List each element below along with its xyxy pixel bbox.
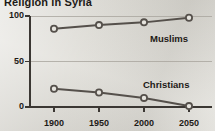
series-lines-group xyxy=(54,18,189,106)
data-point-christians-2000 xyxy=(141,95,147,101)
data-point-christians-1900 xyxy=(51,86,57,92)
data-point-christians-1950 xyxy=(96,89,102,95)
plot-area xyxy=(0,0,215,131)
data-point-christians-2050 xyxy=(186,103,192,109)
chart-container: Religion in Syria 100 50 0 1900 1950 200… xyxy=(0,0,215,131)
data-point-muslims-1900 xyxy=(51,26,57,32)
data-point-muslims-2000 xyxy=(141,19,147,25)
data-point-muslims-2050 xyxy=(186,15,192,21)
series-line-muslims xyxy=(54,18,189,29)
series-line-christians xyxy=(54,89,189,106)
axis-ticks-group xyxy=(25,16,189,112)
data-point-muslims-1950 xyxy=(96,22,102,28)
